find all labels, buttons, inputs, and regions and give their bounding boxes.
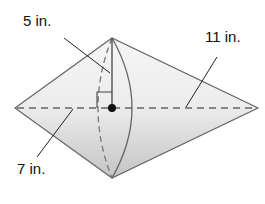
center-point [108, 104, 116, 112]
label-radius: 5 in. [23, 12, 51, 29]
label-slant-left: 7 in. [17, 160, 45, 177]
label-slant-right: 11 in. [205, 28, 241, 45]
